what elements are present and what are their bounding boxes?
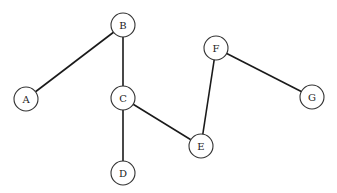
node-label: C xyxy=(119,93,127,104)
edge-e-f xyxy=(201,48,216,146)
graph-diagram: ABCDEFG xyxy=(0,0,337,193)
edge-f-g xyxy=(216,48,312,97)
node-label: F xyxy=(213,43,220,54)
node-label: A xyxy=(21,94,30,105)
node-g: G xyxy=(300,85,324,109)
node-b: B xyxy=(111,13,135,37)
node-d: D xyxy=(111,161,135,185)
nodes-layer: ABCDEFG xyxy=(14,13,324,185)
node-label: E xyxy=(197,141,204,152)
node-label: G xyxy=(308,92,316,103)
node-label: D xyxy=(119,168,127,179)
node-c: C xyxy=(111,86,135,110)
node-label: B xyxy=(119,20,126,31)
edge-a-b xyxy=(26,25,123,99)
edge-c-e xyxy=(123,98,201,146)
node-e: E xyxy=(189,134,213,158)
edges-layer xyxy=(26,25,312,173)
node-a: A xyxy=(14,87,38,111)
node-f: F xyxy=(204,36,228,60)
